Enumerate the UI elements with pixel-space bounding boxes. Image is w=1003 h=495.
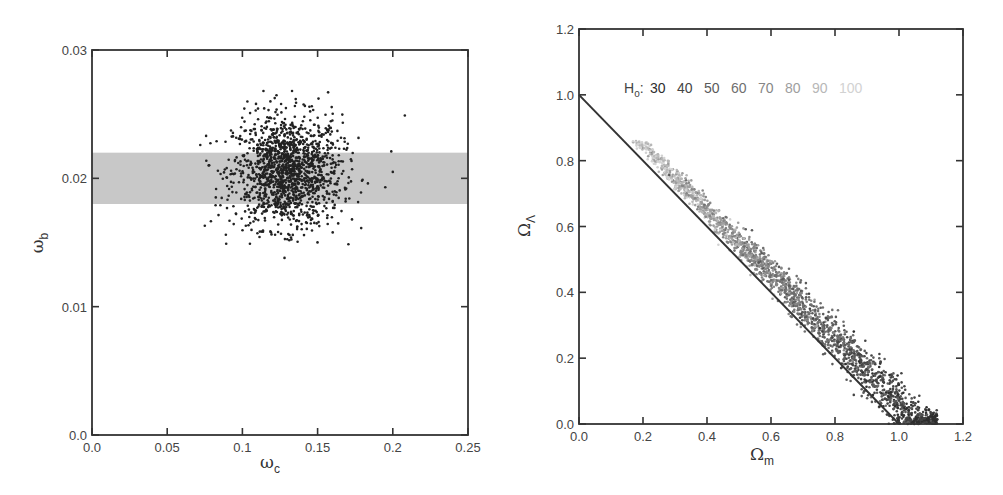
x-tick-label: 1.0 <box>890 429 908 444</box>
scatter-points <box>632 140 939 426</box>
legend-entries: 30405060708090100 <box>650 80 863 96</box>
chart-right-svg: 0.00.20.40.60.81.01.2 0.00.20.40.60.81.0… <box>500 0 1003 495</box>
x-tick-label: 1.2 <box>954 429 972 444</box>
legend-entry: 70 <box>758 80 774 96</box>
x-tick-label: 0.25 <box>455 440 480 455</box>
x-tick-label: 0.15 <box>305 440 330 455</box>
reference-line <box>579 95 899 424</box>
legend-entry: 80 <box>785 80 801 96</box>
chart-left-svg: 0.00.050.10.150.20.25 0.00.010.020.03 ωc… <box>0 0 500 495</box>
x-tick-label: 0.1 <box>233 440 251 455</box>
axis-ticks <box>92 50 468 435</box>
y-tick-label: 0.2 <box>556 351 574 366</box>
y-tick-label: 0.0 <box>556 417 574 432</box>
y-tick-label: 0.0 <box>69 428 87 443</box>
legend-entry: 90 <box>812 80 828 96</box>
y-tick-label: 1.2 <box>556 22 574 37</box>
y-tick-label: 0.01 <box>62 300 87 315</box>
omega-b-vs-omega-c-chart: 0.00.050.10.150.20.25 0.00.010.020.03 ωc… <box>0 0 500 495</box>
y-tick-label: 0.6 <box>556 220 574 235</box>
x-axis-label: Ωm <box>750 444 774 468</box>
legend-entry: 40 <box>677 80 693 96</box>
y-tick-label: 0.03 <box>62 43 87 58</box>
x-tick-label: 0.6 <box>762 429 780 444</box>
svg-text:ωb: ωb <box>27 232 51 253</box>
y-axis-label: ωb <box>27 232 51 253</box>
y-tick-label: 1.0 <box>556 88 574 103</box>
y-tick-label: 0.8 <box>556 154 574 169</box>
y-tick-labels: 0.00.20.40.60.81.01.2 <box>556 22 574 432</box>
x-tick-label: 0.05 <box>155 440 180 455</box>
x-tick-label: 0.2 <box>634 429 652 444</box>
flat-universe-line <box>579 95 899 424</box>
y-tick-label: 0.4 <box>556 285 574 300</box>
x-axis-label: ωc <box>260 452 280 476</box>
svg-text:ΩΛ: ΩΛ <box>514 215 538 237</box>
x-tick-label: 0.2 <box>384 440 402 455</box>
x-tick-label: 0.8 <box>826 429 844 444</box>
legend-entry: 60 <box>731 80 747 96</box>
y-tick-labels: 0.00.010.020.03 <box>62 43 87 443</box>
omega-lambda-vs-omega-m-chart: 0.00.20.40.60.81.01.2 0.00.20.40.60.81.0… <box>500 0 1003 495</box>
x-tick-labels: 0.00.050.10.150.20.25 <box>83 440 481 455</box>
legend-entry: 50 <box>704 80 720 96</box>
legend-entry: 100 <box>839 80 863 96</box>
y-axis-label: ΩΛ <box>514 215 538 237</box>
y-tick-label: 0.02 <box>62 171 87 186</box>
hubble-constant-legend: Ho: 30405060708090100 <box>624 80 863 99</box>
legend-title: Ho: <box>624 80 644 99</box>
legend-entry: 30 <box>650 80 666 96</box>
x-tick-label: 0.4 <box>698 429 716 444</box>
plot-frame <box>92 50 468 435</box>
x-tick-labels: 0.00.20.40.60.81.01.2 <box>570 429 972 444</box>
